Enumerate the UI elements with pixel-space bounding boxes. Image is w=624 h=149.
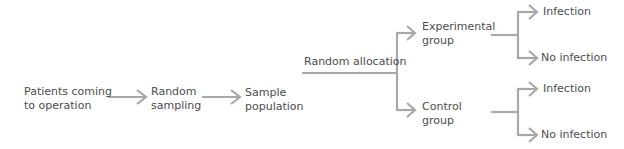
arrow-patients-to-sampling — [108, 90, 146, 104]
node-sample-line1: Sample — [245, 86, 304, 100]
node-patients-line2: to operation — [24, 99, 112, 113]
node-experimental-line1: Experimental — [422, 20, 495, 34]
node-ctrl-infection: Infection — [543, 82, 591, 96]
node-ctrl-no-infection: No infection — [541, 128, 607, 142]
node-random-allocation: Random allocation — [304, 55, 406, 69]
node-sampling-line1: Random — [151, 85, 201, 99]
node-patients: Patients coming to operation — [24, 85, 112, 113]
node-experimental-line2: group — [422, 34, 495, 48]
node-control-line1: Control — [422, 100, 462, 114]
node-control-group: Control group — [422, 100, 462, 128]
connector-lines — [0, 0, 624, 149]
arrow-sampling-to-sample — [202, 90, 240, 104]
node-control-line2: group — [422, 114, 462, 128]
node-random-sampling: Random sampling — [151, 85, 201, 113]
node-exp-no-infection: No infection — [541, 51, 607, 65]
node-sampling-line2: sampling — [151, 99, 201, 113]
node-experimental-group: Experimental group — [422, 20, 495, 48]
node-exp-infection: Infection — [543, 5, 591, 19]
node-patients-line1: Patients coming — [24, 85, 112, 99]
node-sample-population: Sample population — [245, 86, 304, 114]
node-sample-line2: population — [245, 100, 304, 114]
